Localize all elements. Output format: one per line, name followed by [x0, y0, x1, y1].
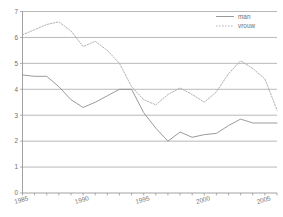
x-tick-label-2000: 2000 [195, 194, 211, 205]
data-series [23, 22, 278, 141]
y-tick-label-7: 7 [14, 8, 18, 15]
x-axis: 19851990199520002005 [13, 193, 277, 205]
series-line-vrouw [23, 22, 278, 110]
y-tick-label-5: 5 [14, 60, 18, 67]
y-tick-label-1: 1 [14, 163, 18, 170]
y-tick-label-6: 6 [14, 34, 18, 41]
line-chart: 01234567 19851990199520002005 manvrouw [0, 0, 283, 217]
x-tick-label-1995: 1995 [135, 194, 151, 205]
y-tick-label-4: 4 [14, 86, 18, 93]
x-tick-label-2005: 2005 [256, 194, 272, 205]
x-tick-label-1990: 1990 [74, 194, 90, 205]
y-tick-label-2: 2 [14, 137, 18, 144]
y-axis: 01234567 [14, 8, 22, 197]
series-line-man [23, 75, 278, 141]
y-tick-label-3: 3 [14, 112, 18, 119]
legend-label-man: man [238, 13, 251, 20]
chart-canvas: 01234567 19851990199520002005 manvrouw [0, 0, 283, 217]
y-tick-label-0: 0 [14, 189, 18, 196]
chart-legend: manvrouw [216, 13, 255, 30]
legend-label-vrouw: vrouw [238, 22, 255, 29]
